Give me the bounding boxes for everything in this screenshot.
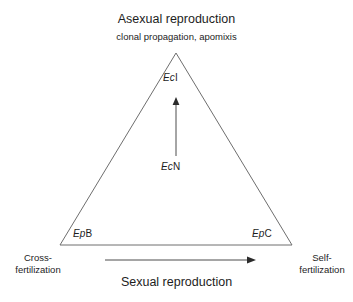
taxon-epc-genus: Ep [252, 228, 264, 239]
taxon-label-ecn: EcN [161, 161, 180, 173]
taxon-epb-genus: Ep [73, 228, 85, 239]
vertical-arrow [173, 97, 180, 156]
self-fertilization-label: Self-fertilization [293, 252, 351, 276]
reproduction-strategy-triangle-figure: Asexual reproduction clonal propagation,… [0, 0, 353, 302]
cross-fertilization-label: Cross-fertilization [2, 252, 74, 276]
taxon-ecn-genus: Ec [161, 161, 173, 172]
horizontal-arrow-head [247, 256, 256, 263]
taxon-eci-genus: Ec [163, 72, 175, 83]
taxon-label-epb: EpB [73, 228, 92, 240]
taxon-epb-species: B [85, 228, 92, 239]
taxon-label-eci: EcI [163, 72, 178, 84]
horizontal-arrow [105, 256, 256, 263]
taxon-epc-species: C [264, 228, 271, 239]
taxon-label-epc: EpC [252, 228, 272, 240]
vertical-arrow-head [173, 97, 180, 105]
sexual-reproduction-caption: Sexual reproduction [0, 275, 353, 290]
taxon-ecn-species: N [173, 161, 180, 172]
taxon-eci-species: I [175, 72, 178, 83]
